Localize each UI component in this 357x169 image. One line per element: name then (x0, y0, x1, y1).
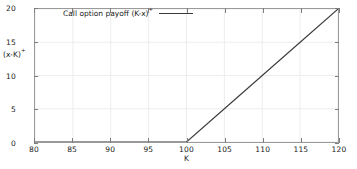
y-tick-mark (34, 76, 38, 77)
y-tick-mark (34, 109, 38, 110)
x-tick-label: 105 (217, 145, 232, 154)
legend-entry-label-text: Call option payoff (K-x) (63, 9, 149, 18)
x-tick-label: 90 (105, 145, 115, 154)
x-tick-mark (187, 138, 188, 143)
y-tick-mark-right (335, 109, 339, 110)
x-tick-label: 85 (67, 145, 77, 154)
x-tick-mark (72, 138, 73, 143)
payoff-line-series (35, 9, 338, 142)
y-tick-mark-right (335, 42, 339, 43)
x-axis-label: K (184, 154, 189, 163)
x-tick-mark (148, 138, 149, 143)
y-tick-label: 5 (11, 109, 16, 118)
x-tick-label: 110 (255, 145, 270, 154)
legend-entry-label-superscript: + (149, 6, 154, 12)
y-axis-label: (x-K)+ (3, 50, 25, 59)
y-tick-mark-right (335, 143, 339, 144)
x-tick-label: 120 (332, 145, 347, 154)
x-tick-mark-top (301, 8, 302, 13)
x-tick-mark (34, 138, 35, 143)
x-tick-mark (263, 138, 264, 143)
x-tick-label: 95 (143, 145, 153, 154)
x-tick-mark-top (225, 8, 226, 13)
x-tick-mark (225, 138, 226, 143)
y-axis-label-text: (x-K) (3, 50, 21, 59)
y-tick-label: 0 (11, 143, 16, 152)
y-axis-label-superscript: + (21, 47, 26, 53)
x-tick-label: 100 (179, 145, 194, 154)
chart-figure: 0510152080859095100105110115120 (x-K)+ K… (0, 0, 357, 169)
y-tick-label: 10 (6, 76, 16, 85)
legend-line-sample (159, 13, 193, 14)
x-tick-mark (110, 138, 111, 143)
legend-entry-label: Call option payoff (K-x)+ (63, 9, 153, 18)
y-tick-label: 20 (6, 8, 16, 17)
plot-area (34, 8, 339, 143)
x-tick-mark-top (339, 8, 340, 13)
x-tick-label: 80 (29, 145, 39, 154)
y-tick-mark (34, 143, 38, 144)
y-tick-mark (34, 42, 38, 43)
x-tick-mark-top (263, 8, 264, 13)
x-tick-mark (301, 138, 302, 143)
x-tick-mark-top (34, 8, 35, 13)
y-tick-mark-right (335, 76, 339, 77)
x-tick-label: 115 (293, 145, 308, 154)
x-tick-mark (339, 138, 340, 143)
legend: Call option payoff (K-x)+ (63, 9, 193, 18)
